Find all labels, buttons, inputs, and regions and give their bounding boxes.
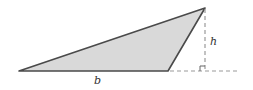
base-label: b	[94, 74, 101, 87]
height-label: h	[210, 35, 217, 48]
right-angle-marker	[200, 66, 205, 71]
triangle-diagram: h b	[0, 0, 253, 90]
triangle	[19, 8, 205, 71]
